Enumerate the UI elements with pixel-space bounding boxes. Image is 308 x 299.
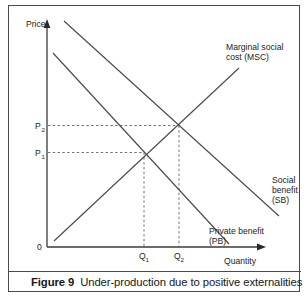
msc-label-line-2: cost (MSC) — [226, 52, 269, 62]
annotation-social-benefit: Social benefit (SB) — [272, 175, 298, 205]
price-subscript-p2: 2 — [42, 126, 46, 133]
price-tick-p2: P 2 — [35, 121, 46, 133]
price-tick-p1: P 1 — [35, 148, 46, 160]
x-axis-arrow-icon — [257, 244, 266, 251]
price-label-p1: P — [35, 148, 41, 158]
quantity-subscript-q2: 2 — [181, 256, 185, 263]
figure-caption: Figure 9 Under-production due to positiv… — [9, 272, 301, 292]
x-axis-label: Quantity — [224, 256, 257, 266]
pb-label-line-2: (PB) — [209, 236, 226, 246]
figure-container: Price Quantity 0 P 2 P 1 Q 1 Q 2 — [8, 5, 300, 292]
origin-label: 0 — [37, 242, 42, 252]
externalities-diagram: Price Quantity 0 P 2 P 1 Q 1 Q 2 — [9, 6, 301, 271]
figure-caption-text: Under-production due to positive externa… — [80, 276, 302, 288]
pb-label-line-1: Private benefit — [209, 226, 265, 236]
annotation-marginal-social-cost: Marginal social cost (MSC) — [226, 42, 283, 62]
price-label-p2: P — [35, 121, 41, 131]
quantity-subscript-q1: 1 — [146, 256, 150, 263]
y-axis-label: Price — [26, 19, 46, 29]
figure-number: Figure 9 — [31, 276, 74, 288]
sb-label-line-2: benefit — [272, 185, 298, 195]
curve-private-benefit — [53, 53, 229, 244]
chart-plot-area: Price Quantity 0 P 2 P 1 Q 1 Q 2 — [9, 6, 301, 271]
price-subscript-p1: 1 — [42, 153, 46, 160]
annotation-private-benefit: Private benefit (PB) — [209, 226, 265, 246]
msc-label-line-1: Marginal social — [226, 42, 283, 52]
quantity-tick-q2: Q 2 — [174, 251, 185, 263]
quantity-tick-q1: Q 1 — [139, 251, 150, 263]
sb-label-line-1: Social — [272, 175, 295, 185]
sb-label-line-3: (SB) — [272, 195, 289, 205]
